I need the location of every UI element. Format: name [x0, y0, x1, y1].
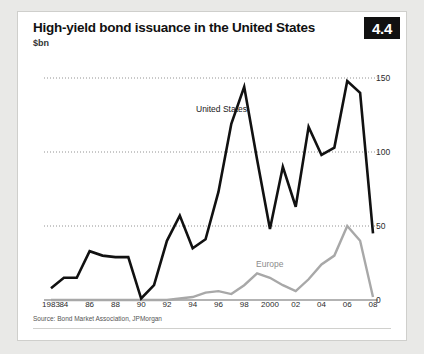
y-axis-tick-label: 150: [376, 73, 404, 83]
figure-panel: 4.4 High-yield bond issuance in the Unit…: [17, 11, 407, 341]
series-line-europe: [51, 226, 373, 300]
footer-divider: [33, 328, 391, 329]
source-note: Source: Bond Market Association, JPMorga…: [33, 315, 162, 322]
y-axis-tick-label: 50: [376, 221, 404, 231]
series-label-europe: Europe: [256, 259, 283, 269]
line-chart: [18, 12, 408, 342]
y-axis-tick-label: 100: [376, 147, 404, 157]
x-axis-tick-label: 08: [353, 300, 393, 309]
series-label-united-states: United States: [196, 104, 247, 114]
